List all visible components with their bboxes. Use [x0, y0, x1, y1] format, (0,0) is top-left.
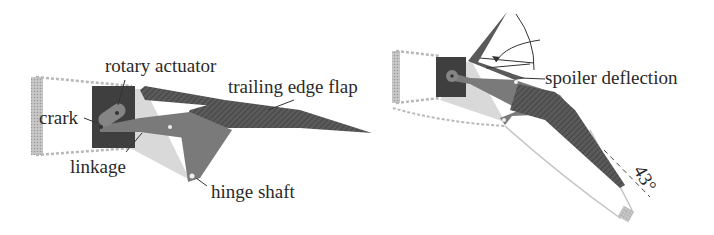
hinge-bracket	[180, 128, 232, 182]
right-panel: spoiler deflection 43°	[392, 12, 678, 222]
label-hinge-shaft: hinge shaft	[211, 181, 296, 202]
label-angle-43: 43°	[630, 162, 661, 196]
wing-outline-right	[396, 51, 440, 103]
label-linkage: linkage	[70, 156, 126, 177]
left-panel: rotary actuator trailing edge flap crark…	[31, 55, 372, 202]
spoiler-panel	[140, 86, 225, 106]
wing-spar-wall-right	[392, 51, 400, 103]
label-trailing-edge-flap: trailing edge flap	[228, 76, 358, 97]
label-rotary-actuator: rotary actuator	[105, 55, 217, 76]
label-spoiler-deflection: spoiler deflection	[545, 67, 678, 88]
label-crark: crark	[39, 107, 79, 128]
diagram-canvas: rotary actuator trailing edge flap crark…	[0, 0, 714, 235]
